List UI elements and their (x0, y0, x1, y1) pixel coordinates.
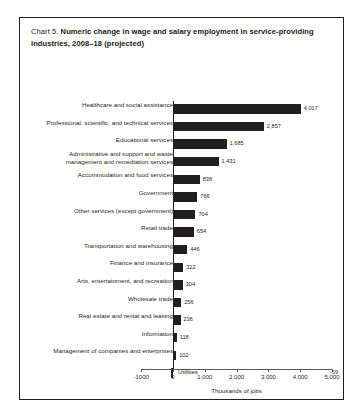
bar-row: Finance and insurance322 (20, 259, 343, 277)
x-axis-tick (141, 369, 142, 372)
bar-value-label: 766 (200, 193, 209, 199)
bar (173, 175, 200, 184)
category-label: Management of companies and enterprises (23, 347, 173, 355)
bar-row: Government766 (20, 189, 343, 207)
bar-value-label: 1,431 (222, 158, 236, 164)
bar-value-label: 4,017 (304, 105, 318, 111)
bar-row: Accommodation and food services838 (20, 171, 343, 189)
bar-value-label: 236 (184, 316, 193, 322)
bar (173, 157, 219, 166)
category-label: Arts, entertainment, and recreation (23, 277, 173, 285)
bar (173, 122, 264, 131)
x-axis-tick (205, 369, 206, 372)
bar (173, 139, 227, 148)
x-axis-title: Thousands of jobs (141, 387, 332, 394)
bar-value-label: 256 (184, 299, 193, 305)
bar-row: Transportation and warehousing446 (20, 242, 343, 260)
bar-row: Real estate and rental and leasing236 (20, 312, 343, 330)
bar-track: 446 (173, 242, 343, 260)
bar-row: Arts, entertainment, and recreation304 (20, 277, 343, 295)
chart-number-label: Chart 5. (31, 27, 58, 36)
bar-value-label: 838 (203, 176, 212, 182)
zero-axis-rule (173, 101, 174, 369)
bar-value-label: 322 (186, 264, 195, 270)
bar-value-label: 654 (197, 228, 206, 234)
plot-area: Healthcare and social assistance4,017Pro… (20, 101, 343, 369)
page-title: Chart 5. Numeric change in wage and sala… (31, 26, 331, 49)
category-label: Information (23, 330, 173, 338)
x-axis-tick-label: 2,000 (229, 374, 244, 380)
bar-track: 838 (173, 171, 343, 189)
bar-value-label: 704 (198, 211, 207, 217)
bar (173, 263, 183, 272)
x-axis-tick-label: -1000 (134, 374, 149, 380)
x-axis-tick-label: 3,000 (261, 374, 276, 380)
category-label: Wholesale trade (23, 295, 173, 303)
category-label: Real estate and rental and leasing (23, 312, 173, 320)
x-axis-tick (268, 369, 269, 372)
bar (173, 104, 301, 113)
bar-track: 236 (173, 312, 343, 330)
bar (173, 192, 197, 201)
x-axis-tick (300, 369, 301, 372)
bar-row: Information118 (20, 330, 343, 348)
x-axis-tick-label: 1,000 (197, 374, 212, 380)
bar-track: 322 (173, 259, 343, 277)
bar (173, 298, 181, 307)
bar (173, 280, 183, 289)
category-label: Educational services (23, 136, 173, 144)
bar-value-label: 102 (179, 352, 188, 358)
bar (173, 210, 195, 219)
bar-value-label: 446 (190, 246, 199, 252)
bar-row: Administrative and support and waste man… (20, 154, 343, 172)
bar-track: 4,017 (173, 101, 343, 119)
category-label: Finance and insurance (23, 259, 173, 267)
bar (173, 227, 194, 236)
bar-row: Other services (except government)704 (20, 207, 343, 225)
bar-row: Professional, scientific, and technical … (20, 119, 343, 137)
bar-track: 256 (173, 295, 343, 313)
bar-row: Management of companies and enterprises1… (20, 347, 343, 365)
bar-track: 118 (173, 330, 343, 348)
chart-title-text: Numeric change in wage and salary employ… (31, 27, 314, 48)
x-axis-tick-label: 5,000 (324, 374, 339, 380)
bar-track: 1,431 (173, 154, 343, 172)
category-label: Government (23, 189, 173, 197)
x-axis-tick-label: 4,000 (293, 374, 308, 380)
x-axis-tick (173, 369, 174, 372)
bar-value-label: 118 (180, 334, 189, 340)
bar-track: 766 (173, 189, 343, 207)
x-axis-tick (237, 369, 238, 372)
bar-row: Healthcare and social assistance4,017 (20, 101, 343, 119)
bar-track: 654 (173, 224, 343, 242)
x-axis-tick-label: 0 (171, 374, 174, 380)
category-label: Healthcare and social assistance (23, 101, 173, 109)
bar-track: 1,685 (173, 136, 343, 154)
bar-track: 304 (173, 277, 343, 295)
bar-value-label: 304 (186, 281, 195, 287)
category-label: Retail trade (23, 224, 173, 232)
category-label: Accommodation and food services (23, 171, 173, 179)
bar-row: Retail trade654 (20, 224, 343, 242)
bar-row: Wholesale trade256 (20, 295, 343, 313)
bar (173, 245, 187, 254)
chart-figure: Chart 5. Numeric change in wage and sala… (19, 17, 344, 400)
category-label: Professional, scientific, and technical … (23, 119, 173, 127)
bar-value-label: 2,857 (267, 123, 281, 129)
bar-track: 102 (173, 347, 343, 365)
bar-track: 704 (173, 207, 343, 225)
bar-value-label: 1,685 (230, 140, 244, 146)
bar-track: 2,857 (173, 119, 343, 137)
x-axis-tick (332, 369, 333, 372)
category-label: Administrative and support and waste man… (23, 150, 173, 166)
category-label: Transportation and warehousing (23, 242, 173, 250)
category-label: Other services (except government) (23, 207, 173, 215)
